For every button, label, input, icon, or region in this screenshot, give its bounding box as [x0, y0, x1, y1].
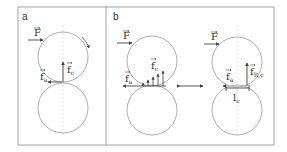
- lower-particle: [127, 85, 177, 135]
- contact-force-label: fc: [67, 64, 75, 76]
- force-label: F: [211, 31, 218, 42]
- panel-a: F fc fa: [28, 25, 89, 135]
- adhesion-force-label: fa: [226, 71, 234, 83]
- contact-length-label: lc: [233, 92, 240, 104]
- force-label: F: [123, 30, 130, 41]
- figure-frame: [18, 7, 274, 145]
- contact-force-label: fc: [151, 60, 159, 72]
- resultant-force-label: fR,c: [250, 66, 264, 78]
- force-label: F: [34, 27, 41, 38]
- panel-b-right: F fR,c fa lc: [204, 25, 264, 135]
- panel-label-b: b: [113, 11, 119, 22]
- contact-mechanics-diagram: a b F fc fa F fa fc: [0, 0, 287, 152]
- panel-label-a: a: [22, 11, 28, 22]
- panel-b-left: F fa fc: [117, 30, 177, 135]
